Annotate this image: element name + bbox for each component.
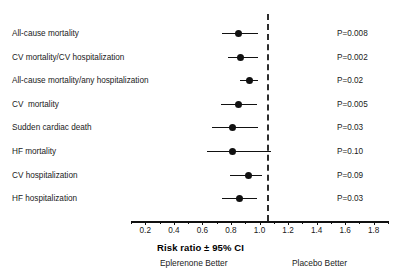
forest-row: HF mortalityP=0.10 [0,140,401,164]
forest-row: CV mortality/CV hospitalizationP=0.002 [0,46,401,70]
point-estimate-marker-7 [236,195,243,202]
x-axis-tick-label-2: 0.6 [187,226,217,235]
x-axis-major-tick [345,221,346,225]
x-axis-tick-label-6: 1.4 [302,226,332,235]
row-label-0: All-cause mortality [12,22,79,46]
row-pvalue-7: P=0.03 [337,187,363,211]
x-axis-major-tick [374,221,375,225]
plot-area: All-cause mortalityP=0.008CV mortality/C… [0,0,401,215]
forest-row: CV mortalityP=0.005 [0,93,401,117]
point-estimate-marker-5 [229,148,236,155]
row-label-1: CV mortality/CV hospitalization [12,46,124,70]
x-axis-minor-tick [359,221,360,224]
forest-row: HF hospitalizationP=0.03 [0,187,401,211]
x-axis-major-tick [202,221,203,225]
x-axis-tick-label-8: 1.8 [359,226,389,235]
row-pvalue-3: P=0.005 [337,93,368,117]
x-axis-tick-label-0: 0.2 [130,226,160,235]
x-axis-tick-label-7: 1.6 [330,226,360,235]
x-axis-minor-tick [131,221,132,224]
x-axis-tick-label-5: 1.2 [273,226,303,235]
row-pvalue-0: P=0.008 [337,22,368,46]
x-axis-major-tick [174,221,175,225]
x-axis-minor-tick [331,221,332,224]
caption-left-favors: Eplerenone Better [160,258,228,268]
forest-row: All-cause mortalityP=0.008 [0,22,401,46]
x-axis-minor-tick [188,221,189,224]
x-axis-title: Risk ratio ± 95% CI [0,242,401,253]
x-axis-major-tick [317,221,318,225]
x-axis-tick-label-1: 0.4 [159,226,189,235]
forest-row: All-cause mortality/any hospitalizationP… [0,69,401,93]
point-estimate-marker-0 [235,30,242,37]
point-estimate-marker-4 [229,124,236,131]
row-label-4: Sudden cardiac death [12,116,92,140]
row-label-7: HF hospitalization [12,187,77,211]
x-axis-major-tick [288,221,289,225]
x-axis-major-tick [145,221,146,225]
x-axis-minor-tick [217,221,218,224]
point-estimate-marker-1 [237,54,244,61]
x-axis-major-tick [260,221,261,225]
point-estimate-marker-3 [235,101,242,108]
x-axis-major-tick [231,221,232,225]
row-label-2: All-cause mortality/any hospitalization [12,69,149,93]
row-pvalue-1: P=0.002 [337,46,368,70]
row-pvalue-6: P=0.09 [337,164,363,188]
row-pvalue-5: P=0.10 [337,140,363,164]
forest-row: Sudden cardiac deathP=0.03 [0,116,401,140]
point-estimate-marker-6 [245,172,252,179]
row-label-5: HF mortality [12,140,56,164]
x-axis-tick-label-4: 1.0 [245,226,275,235]
row-pvalue-2: P=0.02 [337,69,363,93]
point-estimate-marker-2 [246,77,253,84]
x-axis-minor-tick [245,221,246,224]
x-axis-tick-label-3: 0.8 [216,226,246,235]
row-label-3: CV mortality [12,93,59,117]
confidence-interval-line-5 [207,151,271,152]
row-pvalue-4: P=0.03 [337,116,363,140]
x-axis-minor-tick [302,221,303,224]
forest-row: CV hospitalizationP=0.09 [0,164,401,188]
row-label-6: CV hospitalization [12,164,78,188]
x-axis-minor-tick [160,221,161,224]
x-axis-minor-tick [274,221,275,224]
caption-right-favors: Placebo Better [292,258,347,268]
x-axis-minor-tick [388,221,389,224]
forest-plot-figure: All-cause mortalityP=0.008CV mortality/C… [0,0,401,279]
